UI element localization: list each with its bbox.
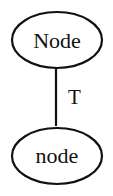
edge-label: T (68, 85, 81, 109)
tree-diagram: Node T node (0, 0, 113, 196)
edge-top-bottom: T (56, 68, 81, 126)
node-bottom: node (12, 128, 102, 184)
node-top: Node (12, 12, 102, 68)
node-label: Node (33, 28, 81, 53)
node-label: node (36, 143, 79, 168)
